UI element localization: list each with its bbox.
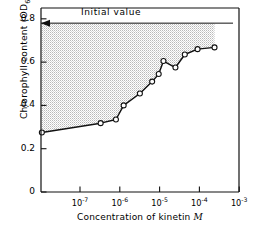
x-tick-exponent: -6 [122,196,128,203]
data-point [121,103,126,108]
y-axis-title-subscript: 665 [24,0,32,4]
x-tick-mantissa: 10 [72,198,82,208]
x-tick-label: 10-4 [182,196,216,208]
data-point [113,117,118,122]
y-axis-title: Chlorophyll content (OD665) [18,0,32,148]
data-point [173,65,178,70]
x-axis-title-main: Concentration of kinetin [77,212,191,222]
y-tick-label: 0 [9,186,35,196]
x-tick-exponent: -5 [162,196,168,203]
data-point [212,45,217,50]
x-tick-label: 10-6 [103,196,137,208]
data-point [150,79,155,84]
x-tick-mantissa: 10 [112,198,122,208]
x-axis-ticks [80,187,239,193]
x-tick-mantissa: 10 [231,198,241,208]
x-tick-label: 10-7 [63,196,97,208]
x-axis-title-italic: M [194,212,203,222]
data-point [195,47,200,52]
data-point [39,130,44,135]
x-axis-title: Concentration of kinetin M [41,212,239,222]
chart-figure: 00.20.40.60.8 10-710-610-510-410-3 Chlor… [0,0,264,228]
x-tick-mantissa: 10 [191,198,201,208]
x-tick-label: 10-3 [222,196,256,208]
x-tick-mantissa: 10 [151,198,161,208]
x-tick-exponent: -7 [82,196,88,203]
data-point [137,91,142,96]
data-point [98,121,103,126]
data-point [182,52,187,57]
y-axis-title-main: Chlorophyll content (OD [18,4,29,119]
x-tick-exponent: -3 [241,196,247,203]
data-point [161,59,166,64]
x-tick-exponent: -4 [202,196,208,203]
shaded-region [42,23,215,132]
data-point [156,72,161,77]
chart-plot-area [0,0,264,228]
annotation-initial-value: Initial value [81,7,141,17]
x-tick-label: 10-5 [143,196,177,208]
